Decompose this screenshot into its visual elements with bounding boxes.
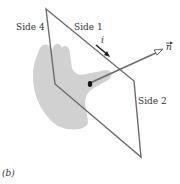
- thumb-dot: [88, 81, 92, 87]
- normal-arrowhead-icon: [154, 49, 163, 55]
- side-1-label: Side 1: [74, 22, 103, 32]
- right-hand-rule-diagram: Side 4 Side 1 Side 2 i n (b): [0, 0, 180, 184]
- current-label: i: [101, 35, 104, 45]
- hand-illustration: [33, 44, 112, 130]
- normal-vector-label: n: [166, 42, 172, 52]
- side-2-label: Side 2: [138, 96, 167, 106]
- side-4-label: Side 4: [16, 22, 45, 32]
- normal-vector-line: [90, 52, 158, 83]
- panel-label: (b): [2, 168, 15, 178]
